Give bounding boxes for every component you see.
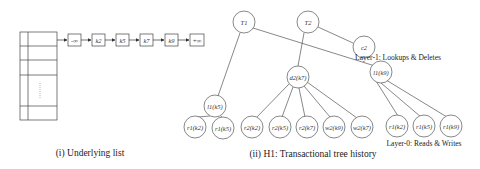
- leaf-nodes: r1(k2) r1(k5) r2(k2) r2(k5) r2(k7) w2(k9…: [184, 115, 462, 139]
- svg-text:r2(k7): r2(k7): [299, 124, 315, 132]
- svg-text:l1(k9): l1(k9): [373, 69, 389, 77]
- tree-edges: [198, 27, 447, 118]
- svg-text:k9: k9: [168, 37, 175, 44]
- svg-text:T1: T1: [241, 19, 248, 26]
- bucket-table: [20, 32, 57, 120]
- leaf-node: r1(k2): [184, 116, 206, 138]
- layer1-label: Layer-1: Lookups & Deletes: [355, 53, 441, 62]
- svg-text:+∞: +∞: [192, 37, 201, 44]
- svg-text:r1(k2): r1(k2): [187, 124, 203, 132]
- list-caption: (i) Underlying list: [56, 148, 125, 159]
- leaf-node: r2(k5): [269, 116, 291, 138]
- svg-text:r1(k2): r1(k2): [389, 123, 405, 131]
- list-node-pos-inf: +∞: [190, 34, 204, 46]
- svg-text:T2: T2: [305, 19, 313, 26]
- svg-text:r1(k5): r1(k5): [215, 125, 231, 133]
- list-node-k9: k9: [165, 34, 178, 46]
- leaf-node: r1(k5): [413, 115, 435, 137]
- svg-text:d2(k7): d2(k7): [290, 74, 307, 82]
- tree-node-l1-k5: l1(k5): [204, 95, 226, 117]
- list-node-k5: k5: [116, 34, 129, 46]
- svg-text:w2(k9): w2(k9): [325, 124, 343, 132]
- list-node-k7: k7: [140, 34, 153, 46]
- svg-text:r1(k5): r1(k5): [416, 123, 432, 131]
- svg-text:w2(k7): w2(k7): [353, 124, 371, 132]
- tree-node-T1: T1: [233, 11, 255, 33]
- leaf-node: r1(k9): [440, 115, 462, 137]
- tree-node-d2-k7: d2(k7): [287, 66, 309, 88]
- diagram-canvas: -∞ k2 k5 k7 k9 +∞ (i) Underlying list: [0, 0, 480, 169]
- tree-node-T2: T2: [297, 11, 319, 33]
- svg-text:-∞: -∞: [71, 37, 78, 44]
- layer0-label: Layer-0: Reads & Writes: [386, 139, 461, 148]
- leaf-node: r2(k2): [241, 116, 263, 138]
- leaf-node: r2(k7): [296, 116, 318, 138]
- leaf-node: w2(k7): [351, 116, 373, 138]
- svg-text:l1(k5): l1(k5): [207, 103, 223, 111]
- leaf-node: r1(k5): [212, 117, 234, 139]
- svg-text:r2(k5): r2(k5): [272, 124, 288, 132]
- svg-text:k2: k2: [95, 37, 102, 44]
- leaf-node: r1(k2): [386, 115, 408, 137]
- svg-text:k5: k5: [119, 37, 126, 44]
- list-node-k2: k2: [92, 34, 105, 46]
- svg-text:c2: c2: [361, 44, 368, 51]
- svg-text:k7: k7: [143, 37, 150, 44]
- list-node-neg-inf: -∞: [68, 34, 81, 46]
- svg-text:r2(k2): r2(k2): [244, 124, 260, 132]
- linked-list: -∞ k2 k5 k7 k9 +∞: [57, 34, 204, 46]
- tree-node-l1-k9: l1(k9): [370, 61, 392, 83]
- svg-text:r1(k9): r1(k9): [443, 123, 459, 131]
- leaf-node: w2(k9): [323, 116, 345, 138]
- tree-caption: (ii) H1: Transactional tree history: [249, 149, 376, 160]
